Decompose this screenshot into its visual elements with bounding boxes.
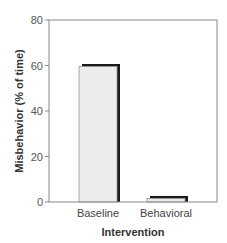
x-axis-label: Intervention: [102, 226, 165, 238]
y-tick-label: 40: [31, 105, 43, 117]
x-category-label: Behavioral: [140, 207, 192, 219]
plot-frame: [49, 20, 217, 202]
x-category-label: Baseline: [77, 207, 119, 219]
y-tick-label: 0: [37, 196, 43, 208]
bar-behavioral: [147, 198, 185, 202]
y-tick-label: 80: [31, 14, 43, 26]
y-axis-ticks: 020406080: [31, 14, 49, 208]
x-axis-categories: BaselineBehavioral: [77, 207, 192, 219]
bar-chart: 020406080 BaselineBehavioral Interventio…: [0, 0, 227, 243]
y-tick-label: 20: [31, 151, 43, 163]
y-tick-label: 60: [31, 60, 43, 72]
y-axis-label: Misbehavior (% of time): [13, 49, 25, 173]
bar-baseline: [79, 67, 117, 203]
bars: [79, 64, 188, 202]
